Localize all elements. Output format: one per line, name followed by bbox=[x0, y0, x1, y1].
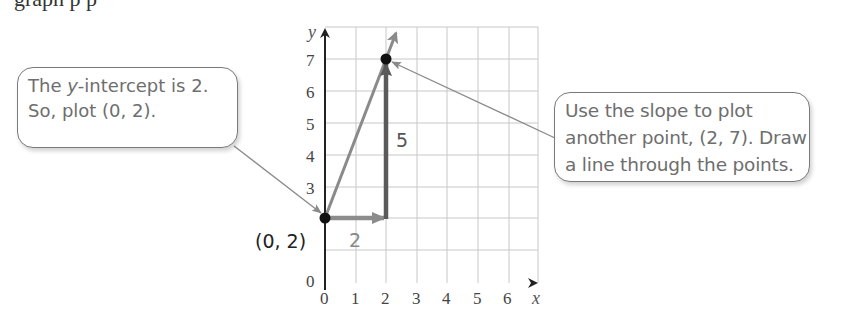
y-tick-4: 4 bbox=[306, 147, 315, 166]
leader-line-right bbox=[392, 62, 555, 138]
callout-left-line2: So, plot (0, 2). bbox=[28, 98, 227, 123]
point-0-2 bbox=[320, 213, 331, 224]
callout-slope: Use the slope to plot another point, (2,… bbox=[554, 92, 810, 182]
callout-y-intercept: The y-intercept is 2. So, plot (0, 2). bbox=[17, 67, 238, 148]
callout-right-line2: another point, (2, 7). Draw bbox=[565, 124, 799, 151]
point-label-0-2: (0, 2) bbox=[255, 230, 306, 252]
x-tick-5: 5 bbox=[473, 289, 482, 308]
y-tick-0: 0 bbox=[306, 272, 315, 291]
callout-right-line3: a line through the points. bbox=[565, 151, 799, 178]
callout-left-line1: The y-intercept is 2. bbox=[28, 73, 227, 98]
y-tick-3: 3 bbox=[306, 179, 315, 198]
x-tick-2: 2 bbox=[381, 289, 390, 308]
x-tick-3: 3 bbox=[412, 289, 421, 308]
x-tick-6: 6 bbox=[503, 289, 512, 308]
y-tick-7: 7 bbox=[306, 51, 315, 70]
y-axis-label: y bbox=[306, 22, 316, 42]
callout-right-line1: Use the slope to plot bbox=[565, 97, 799, 124]
x-axis-label: x bbox=[531, 288, 540, 308]
run-label: 2 bbox=[349, 229, 361, 251]
y-tick-6: 6 bbox=[306, 83, 315, 102]
point-2-7 bbox=[381, 54, 392, 65]
rise-label: 5 bbox=[396, 129, 408, 151]
x-tick-1: 1 bbox=[351, 289, 360, 308]
x-tick-4: 4 bbox=[442, 289, 451, 308]
x-tick-0: 0 bbox=[320, 289, 329, 308]
y-tick-5: 5 bbox=[306, 115, 315, 134]
